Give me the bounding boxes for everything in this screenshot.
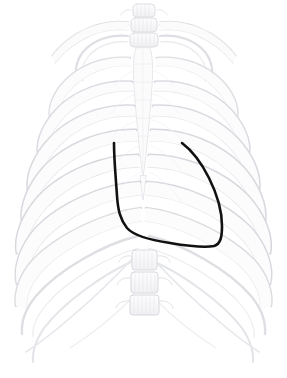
anatomical-figure <box>0 0 287 378</box>
cardiac-border-annotation <box>0 0 287 378</box>
cardiac-border-path <box>114 143 222 247</box>
